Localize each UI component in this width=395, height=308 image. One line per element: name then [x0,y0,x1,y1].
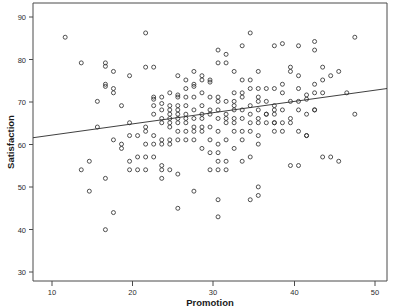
x-tick-label: 50 [371,288,379,297]
y-tick-label: 90 [18,13,26,22]
y-tick-label: 50 [18,183,26,192]
y-tick-label: 70 [18,98,26,107]
x-tick-label: 30 [209,288,217,297]
x-tick-label: 10 [48,288,56,297]
x-tick-label: 40 [290,288,298,297]
plot-canvas: 90 80 70 60 50 40 30 10 20 30 40 50 Sati… [0,0,395,308]
y-tick-label: 80 [18,56,26,65]
x-axis-title: Promotion [186,297,234,308]
y-tick-label: 40 [18,226,26,235]
y-tick-label: 30 [18,268,26,277]
x-tick-label: 20 [128,288,136,297]
y-tick-label: 60 [18,141,26,150]
y-axis-title: Satisfaction [5,115,16,169]
scatter-plot-figure: 90 80 70 60 50 40 30 10 20 30 40 50 Sati… [0,0,395,308]
